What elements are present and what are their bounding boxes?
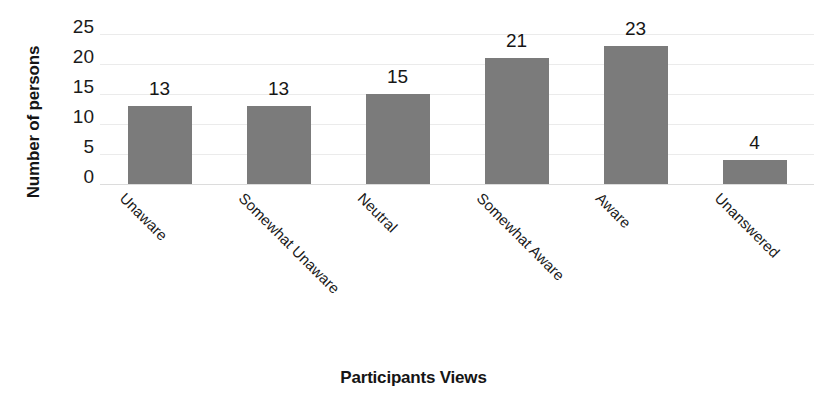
bar-value-label: 21 — [482, 31, 552, 50]
x-axis-tick-label: Neutral — [355, 190, 400, 235]
x-axis-tick-label: Aware — [593, 190, 633, 230]
y-axis-tick-label: 25 — [52, 17, 94, 36]
bar — [604, 46, 668, 184]
bar-group: 13 — [219, 34, 338, 184]
bar — [723, 160, 787, 184]
bar-value-label: 15 — [363, 67, 433, 86]
bar-group: 23 — [576, 34, 695, 184]
plot-area: 13131521234 — [100, 34, 814, 184]
bar-value-label: 13 — [244, 79, 314, 98]
bar-group: 15 — [338, 34, 457, 184]
bar — [247, 106, 311, 184]
bar-chart-figure: Number of persons 0510152025 13131521234… — [0, 0, 827, 416]
y-axis-tick-label: 15 — [52, 77, 94, 96]
x-axis-tick-label: Somewhat Aware — [474, 190, 567, 283]
bars-layer: 13131521234 — [100, 34, 814, 184]
bar-value-label: 13 — [125, 79, 195, 98]
x-axis-tick-label: Unanswered — [712, 190, 782, 260]
y-axis-title: Number of persons — [24, 22, 44, 222]
bar-value-label: 4 — [720, 133, 790, 152]
y-axis-tick-label: 10 — [52, 107, 94, 126]
x-axis-baseline — [100, 184, 814, 185]
x-axis-tick-label: Unaware — [117, 190, 170, 243]
bar-group: 21 — [457, 34, 576, 184]
y-axis-tick-label: 5 — [52, 137, 94, 156]
bar — [485, 58, 549, 184]
bar-group: 13 — [100, 34, 219, 184]
bar-value-label: 23 — [601, 19, 671, 38]
y-axis-tick-label: 20 — [52, 47, 94, 66]
x-axis-tick-labels: UnawareSomewhat UnawareNeutralSomewhat A… — [100, 190, 814, 330]
y-axis-tick-labels: 0510152025 — [52, 26, 94, 184]
bar — [366, 94, 430, 184]
bar-group: 4 — [695, 34, 814, 184]
bar — [128, 106, 192, 184]
y-axis-tick-label: 0 — [52, 167, 94, 186]
x-axis-title: Participants Views — [0, 368, 827, 388]
x-axis-tick-label: Somewhat Unaware — [236, 190, 342, 296]
